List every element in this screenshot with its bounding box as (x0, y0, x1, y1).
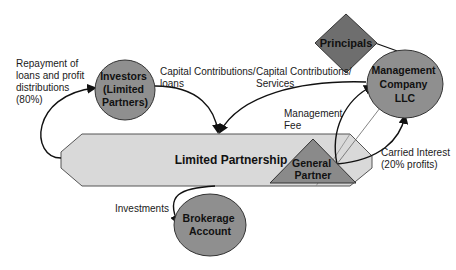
repayment-label: Repayment of loans and profit distributi… (16, 58, 84, 106)
investments-label: Investments (115, 203, 169, 215)
capital-loans-label: Capital Contributions/ loans (160, 66, 256, 90)
limited-partnership-label: Limited Partnership (175, 153, 288, 167)
capital-services-label: Capital Contributions/ Services (256, 66, 352, 90)
management-fee-label: Management Fee (284, 108, 342, 132)
capital-loans-arrow (155, 86, 218, 132)
brokerage-account-label: Brokerage Account (183, 212, 238, 237)
diagram-canvas: Principals Investors (Limited Partners) … (0, 0, 456, 270)
general-partner-label: General Partner (292, 157, 334, 181)
carried-interest-label: Carried Interest (20% profits) (381, 147, 450, 171)
principals-label: Principals (320, 37, 373, 49)
investors-label: Investors (Limited Partners) (100, 70, 150, 108)
